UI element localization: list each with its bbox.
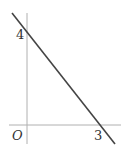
y-intercept-label: 4 xyxy=(16,27,24,42)
origin-label: O xyxy=(12,128,23,143)
coordinate-diagram: 4 O 3 xyxy=(0,0,128,157)
x-intercept-label: 3 xyxy=(94,128,102,143)
